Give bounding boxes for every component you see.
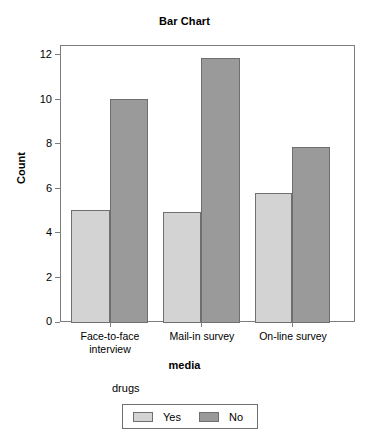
x-category-line: Mail-in survey [155, 330, 249, 343]
legend-swatch-yes-icon [133, 412, 153, 422]
x-category-line: interview [60, 343, 160, 356]
y-tick-label-2: 2 [22, 272, 52, 283]
legend-box: Yes No [122, 404, 258, 429]
x-category-label-on-line-survey: On-line survey [246, 330, 340, 343]
x-axis-title: media [0, 359, 369, 371]
legend-swatch-no-icon [199, 412, 219, 422]
y-tick-mark-0 [55, 322, 60, 323]
x-category-label-mail-in-survey: Mail-in survey [155, 330, 249, 343]
x-category-line: On-line survey [246, 330, 340, 343]
legend-label-yes: Yes [163, 411, 181, 423]
x-category-line: Face-to-face [60, 330, 160, 343]
chart-title: Bar Chart [0, 15, 369, 27]
y-tick-label-12: 12 [22, 49, 52, 60]
y-tick-label-4: 4 [22, 227, 52, 238]
x-category-label-face-to-face-interview: Face-to-face interview [60, 330, 160, 356]
x-tick-mark-2 [292, 322, 293, 327]
bar-face-to-face-yes [71, 210, 110, 323]
bar-mail-in-survey-yes [163, 212, 201, 323]
bar-mail-in-survey-no [201, 58, 240, 323]
bar-on-line-survey-yes [255, 193, 292, 323]
y-tick-label-6: 6 [22, 183, 52, 194]
y-tick-label-10: 10 [22, 94, 52, 105]
bar-on-line-survey-no [292, 147, 330, 323]
legend-label-no: No [229, 411, 243, 423]
y-tick-label-0: 0 [22, 316, 52, 327]
x-tick-mark-1 [201, 322, 202, 327]
bar-chart: Bar Chart Count 12 10 8 6 4 2 0 Face-to-… [0, 0, 369, 446]
x-tick-mark-0 [110, 322, 111, 327]
y-tick-label-8: 8 [22, 138, 52, 149]
legend-title: drugs [112, 382, 140, 394]
bar-face-to-face-no [110, 99, 148, 323]
legend-entry-yes: Yes [133, 410, 181, 424]
legend-entry-no: No [199, 410, 243, 424]
